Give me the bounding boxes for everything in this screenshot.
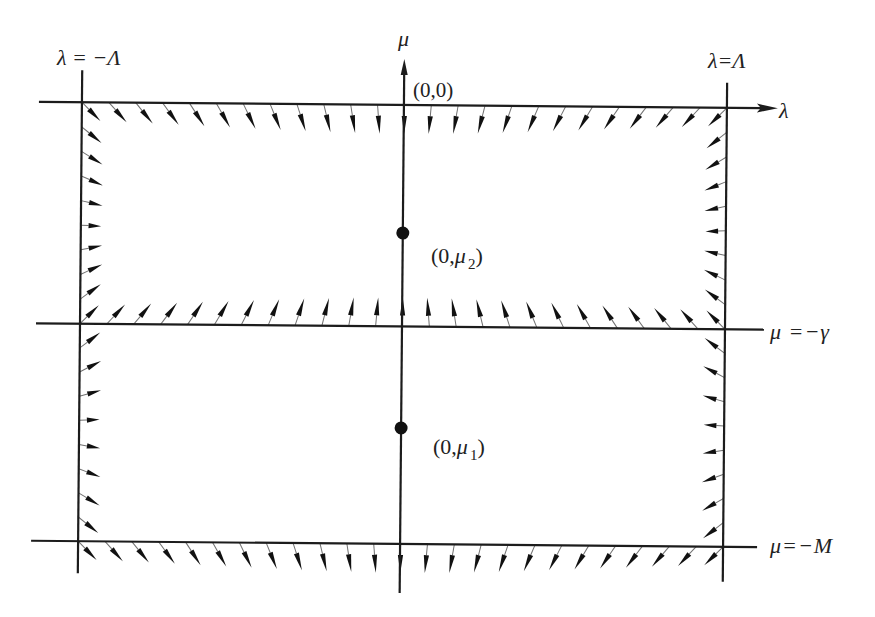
- field-arrow: [81, 223, 101, 228]
- M-line: [31, 541, 757, 547]
- field-arrow: [499, 545, 508, 572]
- arrow-head-icon: [324, 114, 331, 132]
- arrow-head-icon: [136, 548, 149, 563]
- arrow-head-icon: [708, 113, 722, 127]
- arrow-head-icon: [87, 361, 102, 370]
- arrow-head-icon: [191, 302, 203, 318]
- mu-axis-label: μ: [398, 28, 409, 50]
- field-arrow: [239, 543, 252, 568]
- arrow-head-icon: [88, 264, 103, 273]
- equilibrium-point-mu1: [395, 421, 408, 434]
- arrow-tail: [216, 103, 221, 112]
- field-arrow: [80, 264, 102, 274]
- arrow-head-icon: [84, 521, 98, 533]
- arrow-tail: [79, 469, 87, 472]
- field-arrow: [79, 390, 101, 397]
- arrow-tail: [583, 546, 588, 555]
- field-arrow: [322, 298, 329, 326]
- field-arrow: [293, 543, 302, 570]
- arrow-head-icon: [704, 552, 718, 566]
- field-arrow: [707, 132, 727, 148]
- point-mu2-var: μ: [455, 243, 466, 268]
- arrow-head-icon: [704, 251, 718, 256]
- arrow-head-icon: [602, 305, 614, 321]
- arrow-head-icon: [707, 136, 721, 148]
- arrow-head-icon: [88, 223, 101, 228]
- arrow-tail: [80, 271, 88, 275]
- arrow-tail: [81, 176, 89, 180]
- gamma-line: [36, 323, 764, 329]
- arrow-head-icon: [652, 552, 665, 567]
- arrow-tail: [162, 103, 168, 111]
- point-mu1-var: μ: [457, 434, 468, 459]
- field-arrow: [705, 228, 725, 233]
- field-arrow: [159, 542, 175, 564]
- field-arrow: [162, 103, 178, 125]
- point-mu1-label: (0,μ1): [422, 414, 485, 460]
- arrow-head-icon: [704, 270, 719, 279]
- arrow-tail: [80, 342, 88, 348]
- arrow-tail: [79, 394, 87, 396]
- arrow-tail: [612, 320, 618, 329]
- arrow-tail: [716, 523, 724, 529]
- field-arrow: [578, 107, 592, 131]
- arrow-tail: [717, 276, 725, 280]
- arrow-tail: [715, 474, 723, 477]
- field-arrow: [80, 361, 102, 372]
- arrow-head-icon: [215, 550, 226, 566]
- field-arrow: [702, 474, 724, 482]
- field-arrow: [81, 245, 102, 251]
- arrow-head-icon: [705, 205, 719, 211]
- arrow-tail: [533, 318, 537, 328]
- arrow-head-icon: [678, 552, 691, 566]
- field-arrow: [704, 423, 724, 428]
- field-arrow: [680, 309, 698, 329]
- point-mu2-close: ): [475, 243, 482, 268]
- field-arrow: [320, 543, 327, 571]
- arrow-head-icon: [503, 115, 511, 133]
- arrow-tail: [81, 248, 89, 250]
- arrow-head-icon: [217, 301, 228, 317]
- arrow-tail: [718, 206, 726, 208]
- field-arrow: [708, 108, 727, 127]
- field-arrow: [348, 298, 354, 327]
- arrow-head-icon: [165, 303, 177, 318]
- field-arrow: [268, 299, 279, 325]
- field-arrow: [189, 103, 204, 126]
- field-arrow: [241, 300, 254, 325]
- arrow-tail: [614, 107, 620, 116]
- field-arrow: [602, 305, 617, 328]
- field-arrow: [703, 395, 725, 402]
- point-mu1-close: ): [477, 434, 484, 459]
- arrow-head-icon: [680, 309, 693, 323]
- field-arrow: [705, 181, 727, 190]
- field-arrow: [324, 104, 331, 132]
- arrow-tail: [78, 517, 86, 523]
- arrow-head-icon: [630, 114, 642, 129]
- arrow-head-icon: [705, 290, 719, 302]
- field-arrow: [705, 290, 726, 305]
- arrow-tail: [480, 317, 483, 328]
- arrow-head-icon: [372, 554, 377, 572]
- field-arrow: [185, 542, 200, 565]
- arrow-tail: [295, 315, 299, 325]
- arrow-tail: [452, 544, 454, 555]
- arrow-tail: [189, 103, 195, 112]
- lambda-axis-label: λ: [779, 100, 789, 122]
- arrow-head-icon: [600, 553, 612, 569]
- arrow-tail: [718, 157, 726, 162]
- arrow-tail: [377, 105, 378, 116]
- arrow-tail: [322, 315, 325, 326]
- arrow-head-icon: [628, 307, 640, 322]
- field-arrow: [132, 542, 149, 563]
- arrow-head-icon: [189, 549, 201, 565]
- field-arrow: [705, 205, 727, 211]
- field-arrow: [78, 541, 97, 560]
- arrow-tail: [428, 316, 429, 327]
- point-mu2-label: (0,μ2): [420, 223, 483, 269]
- arrow-head-icon: [322, 298, 329, 316]
- field-arrow: [81, 200, 103, 206]
- field-arrow: [628, 307, 645, 329]
- arrow-tail: [78, 493, 86, 498]
- arrow-head-icon: [501, 300, 509, 318]
